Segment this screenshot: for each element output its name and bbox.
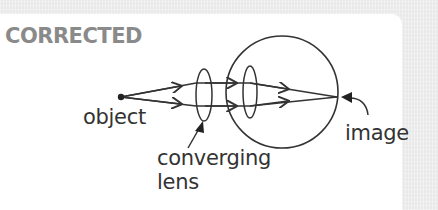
lens-label: lens xyxy=(157,170,199,194)
converging-lens xyxy=(196,69,212,121)
image-pointer-arrow xyxy=(341,92,368,115)
converging-label: converging xyxy=(157,146,271,170)
upper-ray xyxy=(121,83,337,97)
object-point xyxy=(118,94,124,100)
lens-pointer-arrow xyxy=(188,121,204,148)
lower-ray xyxy=(121,97,337,106)
optics-diagram xyxy=(0,0,438,210)
image-label: image xyxy=(345,121,409,145)
object-label: object xyxy=(83,105,146,129)
eye-lens xyxy=(243,66,257,118)
